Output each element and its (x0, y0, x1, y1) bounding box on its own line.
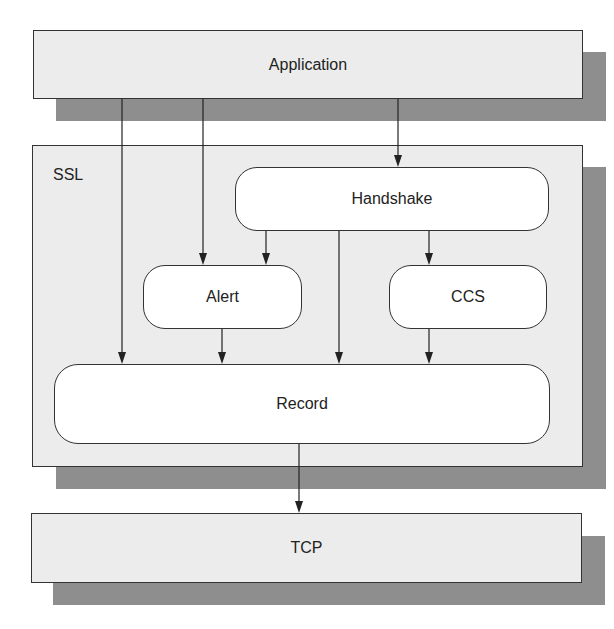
arrows-layer (0, 0, 614, 629)
